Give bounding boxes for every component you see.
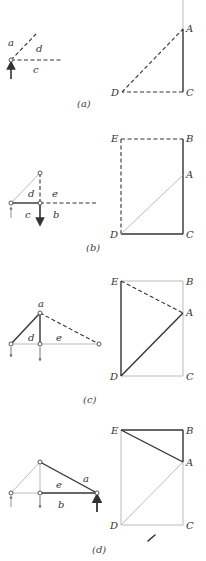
joint-node bbox=[38, 460, 42, 464]
polygon-side-DA bbox=[122, 29, 183, 92]
truss-label: e bbox=[56, 479, 62, 490]
panel-d: e a b E B A D C (d) bbox=[9, 425, 194, 555]
joint-node bbox=[97, 342, 101, 346]
vertex-label: A bbox=[185, 23, 193, 34]
truss-label: b bbox=[58, 499, 64, 510]
construction-line-DA bbox=[121, 462, 183, 525]
vertex-label: A bbox=[185, 457, 193, 468]
truss-force-diagram: a d c A C D (a) d e c bbox=[0, 0, 206, 561]
member-thin-diagonal bbox=[11, 173, 40, 203]
vertex-label: B bbox=[185, 133, 193, 144]
vertex-label: D bbox=[109, 520, 118, 531]
joint-node bbox=[38, 311, 42, 315]
polygon-side-EA bbox=[121, 281, 183, 313]
joint-node bbox=[9, 342, 13, 346]
vertex-label: D bbox=[109, 229, 118, 240]
joint-node bbox=[38, 171, 42, 175]
joint-node bbox=[9, 201, 13, 205]
vertex-label: A bbox=[185, 307, 193, 318]
polygon-side-DA bbox=[121, 313, 183, 376]
vertex-label: C bbox=[186, 371, 194, 382]
force-polygon-b: E B A D C bbox=[109, 133, 194, 240]
panel-a: a d c A C D (a) bbox=[8, 0, 194, 109]
truss-label: e bbox=[56, 332, 62, 343]
force-polygon-d: E B A D C bbox=[109, 425, 194, 541]
truss-c: a d e bbox=[9, 298, 101, 360]
vertex-label: E bbox=[110, 276, 119, 287]
vertex-label: B bbox=[185, 425, 193, 436]
truss-label: a bbox=[8, 37, 14, 48]
panel-caption: (c) bbox=[83, 394, 97, 405]
member-dashed-diagonal bbox=[11, 34, 36, 60]
truss-label: d bbox=[28, 188, 34, 199]
joint-node bbox=[38, 342, 42, 346]
truss-label: e bbox=[52, 188, 58, 199]
member-left-diagonal bbox=[11, 462, 40, 493]
joint-node bbox=[38, 201, 42, 205]
panel-caption: (a) bbox=[77, 98, 91, 109]
vertex-label: C bbox=[186, 520, 194, 531]
vertex-label: B bbox=[185, 276, 193, 287]
vertex-label: D bbox=[110, 87, 119, 98]
joint-node bbox=[9, 491, 13, 495]
pen-mark-icon bbox=[148, 535, 155, 541]
construction-line-DA bbox=[121, 175, 183, 234]
force-polygon-c: E B A D C bbox=[109, 276, 194, 382]
polygon-side-EA bbox=[121, 430, 183, 462]
truss-label: b bbox=[53, 209, 59, 220]
truss-label: c bbox=[33, 64, 39, 75]
panel-caption: (b) bbox=[86, 242, 100, 253]
vertex-label: D bbox=[109, 371, 118, 382]
truss-label: a bbox=[38, 298, 44, 309]
panel-b: d e c b E B A D C (b) bbox=[9, 133, 194, 253]
panel-c: a d e E B A D C (c) bbox=[9, 276, 194, 405]
truss-d: e a b bbox=[9, 460, 99, 512]
vertex-label: C bbox=[186, 229, 194, 240]
vertex-label: E bbox=[110, 425, 119, 436]
joint-node bbox=[95, 491, 99, 495]
member-dashed-right-diagonal bbox=[40, 313, 99, 344]
truss-label: d bbox=[36, 43, 42, 54]
member-left-diagonal bbox=[11, 313, 40, 344]
vertex-label: C bbox=[186, 87, 194, 98]
joint-node bbox=[38, 491, 42, 495]
force-polygon-a: A C D bbox=[110, 0, 194, 98]
panel-caption: (d) bbox=[92, 544, 106, 555]
vertex-label: A bbox=[185, 169, 193, 180]
truss-b: d e c b bbox=[9, 171, 96, 222]
truss-label: d bbox=[28, 332, 34, 343]
vertex-label: E bbox=[110, 133, 119, 144]
truss-label: a bbox=[83, 473, 89, 484]
joint-node bbox=[9, 58, 13, 62]
truss-label: c bbox=[25, 209, 31, 220]
truss-a: a d c bbox=[8, 34, 61, 79]
